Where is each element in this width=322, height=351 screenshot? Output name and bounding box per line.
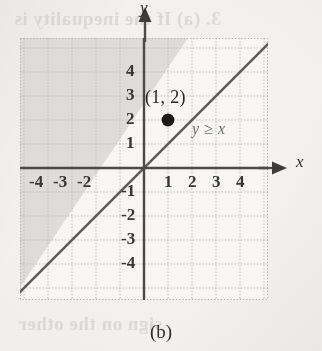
y-tick-label-4: 4 xyxy=(126,61,135,81)
graph-svg xyxy=(20,38,268,300)
plotted-point-1-2 xyxy=(162,114,175,127)
figure-container: 3. (a) If the inequality is sign on the … xyxy=(0,0,322,351)
x-tick-label--2: -2 xyxy=(77,172,91,192)
y-axis-label: y xyxy=(140,0,148,18)
x-tick-label-4: 4 xyxy=(236,172,245,192)
x-tick-label-1: 1 xyxy=(164,172,173,192)
y-tick-label--2: -2 xyxy=(121,205,135,225)
coordinate-plane xyxy=(20,38,268,300)
y-tick-label--1: -1 xyxy=(121,181,135,201)
x-tick-label-3: 3 xyxy=(212,172,221,192)
x-tick-label--4: -4 xyxy=(29,172,43,192)
y-tick-label--4: -4 xyxy=(121,253,135,273)
x-axis-label: x xyxy=(296,152,304,172)
y-tick-label--3: -3 xyxy=(121,229,135,249)
y-tick-label-2: 2 xyxy=(126,109,135,129)
arrow-right-icon xyxy=(258,158,292,180)
figure-caption: (b) xyxy=(0,321,322,343)
y-tick-label-1: 1 xyxy=(126,133,135,153)
x-tick-label--3: -3 xyxy=(53,172,67,192)
bleed-through-text-top: 3. (a) If the inequality is xyxy=(14,8,221,30)
point-label: (1, 2) xyxy=(145,87,186,108)
x-tick-label-2: 2 xyxy=(188,172,197,192)
y-tick-label-3: 3 xyxy=(126,85,135,105)
inequality-label: y ≥ x xyxy=(192,120,225,138)
